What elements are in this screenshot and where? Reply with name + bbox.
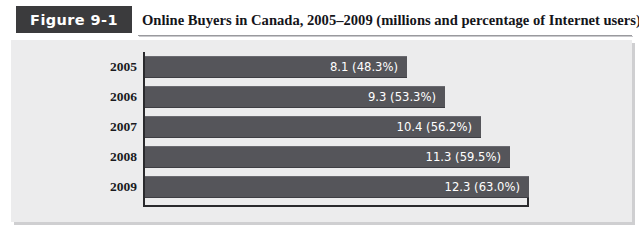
bar-value-label-2005: 8.1 (48.3%) [330,60,407,74]
bar-value-label-2008: 11.3 (59.5%) [426,150,510,164]
bar-row: 200912.3 (63.0%) [11,176,632,198]
bar-category-label-2009: 2009 [97,176,137,198]
figure-header: Figure 9-1 Online Buyers in Canada, 2005… [0,6,639,36]
bar-2008: 11.3 (59.5%) [145,146,510,168]
bar-value-label-2007: 10.4 (56.2%) [397,120,481,134]
figure-number-label: Figure 9-1 [30,12,118,28]
figure-title: Online Buyers in Canada, 2005–2009 (mill… [142,9,632,31]
bar-row: 20069.3 (53.3%) [11,86,632,108]
panel-shadow-right [632,43,635,225]
chart-panel: 20058.1 (48.3%)20069.3 (53.3%)200710.4 (… [11,40,632,222]
figure-container: Figure 9-1 Online Buyers in Canada, 2005… [0,0,639,237]
panel-shadow-bottom [14,222,635,225]
bar-row: 20058.1 (48.3%) [11,56,632,78]
bar-category-label-2008: 2008 [97,146,137,168]
x-axis-end-tick [527,197,529,207]
bar-row: 200710.4 (56.2%) [11,116,632,138]
bar-2005: 8.1 (48.3%) [145,56,407,78]
bar-value-label-2009: 12.3 (63.0%) [445,180,529,194]
bar-2006: 9.3 (53.3%) [145,86,445,108]
bar-row: 200811.3 (59.5%) [11,146,632,168]
bar-category-label-2005: 2005 [97,56,137,78]
figure-number-badge: Figure 9-1 [16,6,132,33]
bar-category-label-2007: 2007 [97,116,137,138]
bar-category-label-2006: 2006 [97,86,137,108]
header-divider-shadow [139,36,633,37]
bar-chart-plot: 20058.1 (48.3%)20069.3 (53.3%)200710.4 (… [11,40,632,222]
x-axis-line [143,205,529,207]
bar-value-label-2006: 9.3 (53.3%) [368,90,445,104]
bar-2007: 10.4 (56.2%) [145,116,481,138]
bar-2009: 12.3 (63.0%) [145,176,529,198]
